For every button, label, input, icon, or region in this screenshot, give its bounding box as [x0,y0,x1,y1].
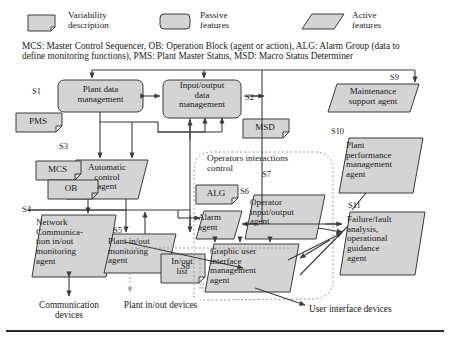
legend-shape-active [302,14,344,29]
tag-S6: S6 [240,187,249,196]
conn-S2-down-left [158,122,205,132]
node-S9-label: Maintenancesupport agent [330,87,416,106]
tag-S3: S3 [59,142,68,151]
tag-S10: S10 [331,127,344,136]
tag-S11: S11 [348,201,361,210]
node-S8-label: Graphic userinterfacemanagementagent [210,247,292,286]
tag-S1: S1 [32,87,41,96]
variability-INOUT-label: In/outlist [161,257,203,276]
conn-S1-down-bus [100,112,132,122]
variability-MCS-label: MCS [36,165,79,175]
variability-PMS-label: PMS [16,117,60,127]
tag-S9: S9 [390,73,399,82]
node-S11-label: Failure/faultanalysis,operational guidan… [347,215,421,264]
variability-ALG-label: ALG [196,189,236,199]
variability-OB-label: OB [48,184,94,194]
tag-S7: S7 [262,170,271,179]
node-S6-label: Alarmagent [198,213,236,232]
variability-MSD-label: MSD [243,123,287,133]
node-S7-label: Operatorinput/outputagent [250,198,316,227]
conn-S3-right-down [28,199,126,210]
device-label-user-interface: User interface devices [309,304,441,314]
legend-shape-passive [160,14,190,29]
legend-label-variability: Variability description [68,11,109,31]
device-label-plant-inout: Plant in/out devices [98,300,223,310]
legend-shape-variability [28,15,55,31]
node-S1-label: Plant datamanagement [58,85,143,104]
conn-S7right-to-S11 [318,228,342,232]
node-S2-label: Input/outputdatamanagement [163,81,241,110]
tag-S5: S5 [113,226,122,235]
group-label-operators-interactions: Operators interactions control [207,154,288,174]
tag-S4: S4 [22,205,31,214]
node-S10-label: Plantperformancemanagementagent [346,141,418,180]
node-S4-label: NetworkCommunica-tion in/out monitoringa… [36,218,108,267]
diagram-canvas: Variability description Passive features… [0,0,450,343]
caption-abbreviations: MCS: Master Control Sequencer, OB: Opera… [22,41,434,61]
legend-label-passive: Passive features [200,11,229,31]
legend-label-active: Active features [352,11,381,31]
tag-S2: S2 [245,93,254,102]
